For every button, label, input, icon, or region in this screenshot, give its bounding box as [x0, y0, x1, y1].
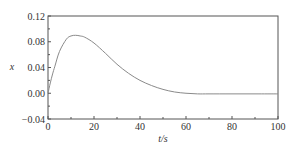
data-series-line	[48, 35, 278, 94]
line-chart: 020406080100 0.120.080.040.00−0.04 t/s x	[0, 0, 296, 148]
plot-frame	[48, 16, 278, 119]
x-axis-ticks: 020406080100	[46, 116, 286, 132]
y-tick-label: 0.12	[28, 11, 46, 22]
x-tick-label: 60	[181, 121, 191, 132]
x-axis-label: t/s	[158, 133, 168, 144]
x-tick-label: 100	[271, 121, 286, 132]
y-tick-label: 0.04	[28, 62, 46, 73]
x-tick-label: 80	[227, 121, 237, 132]
y-tick-label: 0.08	[28, 36, 46, 47]
y-tick-label: −0.04	[22, 114, 45, 125]
x-tick-label: 0	[46, 121, 51, 132]
y-axis-label: x	[9, 61, 15, 72]
x-tick-label: 40	[135, 121, 145, 132]
x-tick-label: 20	[89, 121, 99, 132]
y-axis-ticks: 0.120.080.040.00−0.04	[22, 11, 51, 125]
y-tick-label: 0.00	[28, 88, 46, 99]
